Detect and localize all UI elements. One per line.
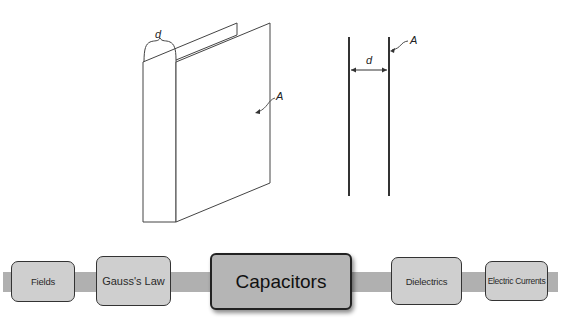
nav-item-label: Dielectrics (406, 276, 448, 287)
nav-item-fields[interactable]: Fields (11, 261, 75, 302)
nav-item-label: Fields (31, 276, 55, 287)
area-label: A (275, 90, 283, 102)
arrowhead-left-icon (351, 68, 356, 73)
capacitor-diagram: d A d A (0, 0, 570, 250)
gap-label: d (155, 28, 162, 40)
nav-item-gauss-law[interactable]: Gauss's Law (96, 256, 171, 306)
arrowhead-icon (390, 48, 395, 53)
nav-item-capacitors[interactable]: Capacitors (210, 253, 352, 310)
nav-item-electric-currents[interactable]: Electric Currents (485, 261, 548, 301)
nav-item-label: Electric Currents (488, 276, 546, 286)
nav-item-label: Capacitors (236, 271, 327, 293)
perspective-view (143, 23, 275, 222)
nav-item-label: Gauss's Law (102, 275, 165, 287)
nav-item-dielectrics[interactable]: Dielectrics (391, 257, 462, 305)
side-gap-label: d (366, 54, 373, 66)
side-area-label: A (409, 34, 417, 46)
arrowhead-right-icon (382, 68, 387, 73)
side-view (349, 37, 408, 196)
